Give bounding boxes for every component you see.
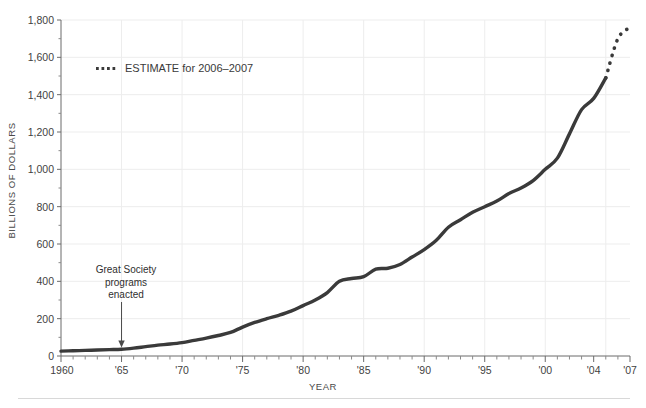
annotation-arrow: [118, 302, 124, 348]
chart-legend: ESTIMATE for 2006–2007: [96, 62, 253, 74]
legend-label-estimate: ESTIMATE for 2006–2007: [125, 62, 253, 74]
footer-divider: [18, 398, 630, 399]
annotation-line-2: programs: [78, 277, 174, 290]
annotation-arrow-head: [118, 341, 124, 348]
series-line-estimate: [606, 27, 630, 77]
annotation-line-3: enacted: [78, 289, 174, 302]
spending-line-chart: BILLIONS OF DOLLARS 02004006008001,0001,…: [0, 0, 646, 408]
series-line-actual: [61, 78, 606, 351]
great-society-annotation: Great Society programs enacted: [78, 264, 174, 302]
x-axis-title: YEAR: [0, 381, 646, 392]
annotation-line-1: Great Society: [78, 264, 174, 277]
legend-dotted-swatch: [96, 67, 118, 70]
data-series: [61, 27, 630, 351]
